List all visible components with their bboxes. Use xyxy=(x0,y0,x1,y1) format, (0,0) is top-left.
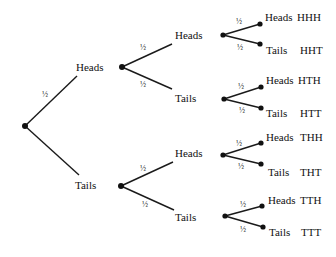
node-h xyxy=(119,64,125,70)
prob-ht-htt: ½ xyxy=(239,106,245,115)
prob-tt-ttt: ½ xyxy=(240,225,246,234)
prob-root-heads: ½ xyxy=(42,90,48,99)
prob-th-thh: ½ xyxy=(236,139,242,148)
node-root xyxy=(22,123,28,129)
node-th xyxy=(220,152,225,157)
label-t: Tails xyxy=(75,179,96,191)
leaf-label-hth: Heads xyxy=(266,74,294,86)
prob-h-hh: ½ xyxy=(140,43,146,52)
edge-h-hh xyxy=(122,44,172,67)
leaf-label-thh: Heads xyxy=(266,131,294,143)
label-ht: Tails xyxy=(175,92,196,104)
outcome-ttt: TTT xyxy=(301,226,321,238)
node-ht xyxy=(221,96,226,101)
leaf-node-ttt xyxy=(260,224,265,229)
prob-tt-tth: ½ xyxy=(240,200,246,209)
label-h: Heads xyxy=(76,61,104,73)
leaf-label-ttt: Tails xyxy=(269,226,290,238)
outcome-tth: TTH xyxy=(300,194,321,206)
prob-t-tt: ½ xyxy=(142,200,148,209)
leaf-label-tht: Tails xyxy=(268,166,289,178)
prob-hh-hhh: ½ xyxy=(236,17,242,26)
node-tt xyxy=(222,213,227,218)
leaf-label-tth: Heads xyxy=(268,194,296,206)
leaf-node-tth xyxy=(259,203,264,208)
leaf-node-hhh xyxy=(257,21,262,26)
edge-t-th xyxy=(121,162,173,186)
node-t xyxy=(118,183,124,189)
prob-t-th: ½ xyxy=(140,164,146,173)
leaf-label-hhh: Heads xyxy=(265,11,293,23)
leaf-label-hht: Tails xyxy=(266,44,287,56)
outcome-htt: HTT xyxy=(300,107,322,119)
label-hh: Heads xyxy=(175,29,203,41)
prob-ht-hth: ½ xyxy=(238,82,244,91)
prob-th-tht: ½ xyxy=(238,162,244,171)
outcome-tht: THT xyxy=(300,166,322,178)
node-hh xyxy=(220,32,225,37)
probability-tree-diagram: ½ Heads Tails ½ ½ Heads Tails ½ ½ Heads … xyxy=(0,0,336,257)
leaf-node-htt xyxy=(258,105,263,110)
label-th: Heads xyxy=(175,147,203,159)
edge-th-thh xyxy=(223,143,261,155)
leaf-label-htt: Tails xyxy=(266,107,287,119)
leaf-node-tht xyxy=(258,161,263,166)
label-tt: Tails xyxy=(175,211,196,223)
outcome-thh: THH xyxy=(300,131,323,143)
leaf-node-thh xyxy=(258,140,263,145)
edge-root-tails xyxy=(25,126,79,175)
outcome-hhh: HHH xyxy=(297,11,321,23)
prob-hh-hht: ½ xyxy=(237,43,243,52)
edge-root-heads xyxy=(25,76,77,126)
leaf-node-hht xyxy=(257,41,262,46)
leaf-node-hth xyxy=(258,84,263,89)
outcome-hht: HHT xyxy=(300,44,323,56)
prob-h-ht: ½ xyxy=(140,80,146,89)
outcome-hth: HTH xyxy=(298,74,321,86)
tree-canvas: ½ Heads Tails ½ ½ Heads Tails ½ ½ Heads … xyxy=(0,0,336,257)
edge-h-ht xyxy=(122,67,172,89)
